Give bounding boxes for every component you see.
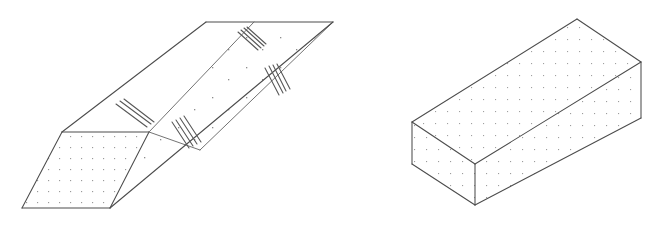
figure-canvas: Two isometric solid line drawings [0,0,657,225]
solids-line-drawing: Two isometric solid line drawings [0,0,657,225]
